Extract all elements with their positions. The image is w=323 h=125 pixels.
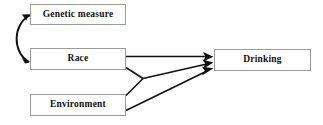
node-race[interactable]: Race	[30, 48, 126, 70]
node-environment[interactable]: Environment	[30, 94, 126, 116]
edge-environment-drinking-arrowhead	[202, 67, 214, 76]
node-genetic-measure-label: Genetic measure	[43, 10, 114, 20]
diagram-canvas: Genetic measure Race Environment Drinkin…	[0, 0, 323, 125]
node-environment-label: Environment	[50, 100, 106, 110]
node-genetic-measure[interactable]: Genetic measure	[30, 4, 126, 25]
edge-race-junction-line	[126, 68, 143, 79]
edge-junction-drinking-line	[143, 64, 209, 79]
edge-genetic-race-curve	[17, 16, 30, 62]
edge-environment-junction-line	[126, 79, 143, 96]
node-drinking[interactable]: Drinking	[214, 49, 311, 71]
node-drinking-label: Drinking	[243, 55, 282, 65]
node-race-label: Race	[68, 54, 89, 64]
